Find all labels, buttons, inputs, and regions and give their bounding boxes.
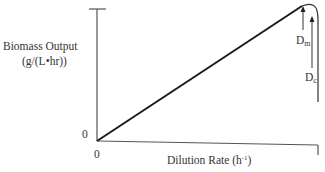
- biomass-output-line: [97, 6, 302, 141]
- y-axis-label-line1: Biomass Output: [3, 40, 77, 53]
- diagram-canvas: [0, 0, 325, 172]
- dm-label: Dm: [296, 34, 311, 50]
- y-axis-label-line2: (g/(L•hr)): [22, 55, 67, 68]
- dc-label: Dc: [305, 71, 317, 87]
- x-axis-label: Dilution Rate (h-1): [167, 152, 251, 167]
- washout-curve: [302, 4, 318, 102]
- x-axis-label-main: Dilution Rate (h: [167, 154, 242, 166]
- x-axis-label-close: ): [248, 154, 252, 166]
- dm-label-sub: m: [304, 39, 310, 48]
- x-origin-label: 0: [94, 148, 100, 161]
- dc-arrow-head: [310, 16, 315, 22]
- dc-label-sub: c: [313, 76, 317, 85]
- x-axis: [97, 141, 318, 145]
- y-origin-label: 0: [82, 128, 88, 141]
